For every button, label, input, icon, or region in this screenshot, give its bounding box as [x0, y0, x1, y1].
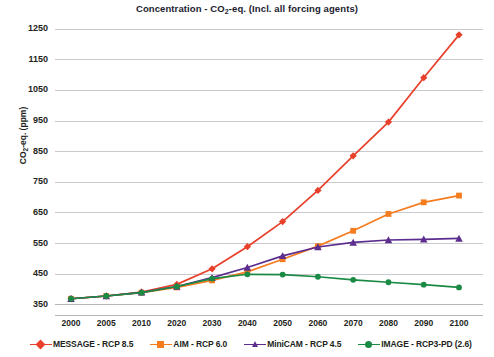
chart-container: Concentration - CO2-eq. (Incl. all forci… — [0, 0, 494, 357]
chart-title: Concentration - CO2-eq. (Incl. all forci… — [0, 3, 494, 15]
x-tick-label: 2080 — [368, 319, 408, 328]
x-tick-label: 2040 — [227, 319, 267, 328]
gridline — [55, 304, 483, 305]
x-tick-label: 2060 — [298, 319, 338, 328]
gridline — [55, 121, 483, 122]
x-tick-label: 2010 — [122, 319, 162, 328]
gridline — [55, 90, 483, 91]
legend-label: AIM - RCP 6.0 — [173, 339, 227, 349]
x-tick-label: 2000 — [51, 319, 91, 328]
y-tick-label: 750 — [8, 177, 48, 186]
legend-swatch-diamond-icon — [30, 339, 52, 349]
gridline — [55, 151, 483, 152]
y-axis-title-post: -eq. (ppm) — [18, 107, 28, 148]
y-axis-title: CO2-eq. (ppm) — [18, 81, 29, 191]
gridline — [55, 243, 483, 244]
y-tick-label: 850 — [8, 147, 48, 156]
y-tick-label: 1250 — [8, 24, 48, 33]
x-tick-label: 2090 — [404, 319, 444, 328]
x-tick-label: 2030 — [192, 319, 232, 328]
x-tick-label: 2005 — [86, 319, 126, 328]
legend-item[interactable]: AIM - RCP 6.0 — [150, 339, 227, 349]
gridline — [55, 274, 483, 275]
legend-item[interactable]: MiniCAM - RCP 4.5 — [244, 339, 341, 349]
x-tick-label: 2070 — [333, 319, 373, 328]
chart-title-post: -eq. (Incl. all forcing agents) — [229, 3, 358, 14]
plot-area — [55, 18, 483, 315]
x-tick-label: 2020 — [157, 319, 197, 328]
y-tick-label: 350 — [8, 300, 48, 309]
gridline — [55, 29, 483, 30]
y-tick-label: 1150 — [8, 55, 48, 64]
y-tick-label: 650 — [8, 208, 48, 217]
legend-item[interactable]: IMAGE - RCP3-PD (2.6) — [358, 339, 471, 349]
legend-label: IMAGE - RCP3-PD (2.6) — [381, 339, 471, 349]
legend-swatch-square-icon — [150, 339, 172, 349]
y-tick-label: 550 — [8, 239, 48, 248]
x-tick-label: 2100 — [439, 319, 479, 328]
gridline — [55, 212, 483, 213]
x-axis-line — [55, 315, 483, 316]
gridline — [55, 182, 483, 183]
y-tick-label: 450 — [8, 269, 48, 278]
x-tick-label: 2050 — [263, 319, 303, 328]
gridline — [55, 59, 483, 60]
legend-swatch-triangle-icon — [244, 339, 266, 349]
y-tick-label: 950 — [8, 116, 48, 125]
chart-title-pre: Concentration - CO — [136, 3, 225, 14]
chart-legend: MESSAGE - RCP 8.5AIM - RCP 6.0MiniCAM - … — [30, 336, 480, 352]
legend-swatch-circle-icon — [358, 339, 380, 349]
legend-item[interactable]: MESSAGE - RCP 8.5 — [30, 339, 133, 349]
legend-label: MESSAGE - RCP 8.5 — [53, 339, 133, 349]
y-tick-label: 1050 — [8, 85, 48, 94]
legend-label: MiniCAM - RCP 4.5 — [267, 339, 341, 349]
